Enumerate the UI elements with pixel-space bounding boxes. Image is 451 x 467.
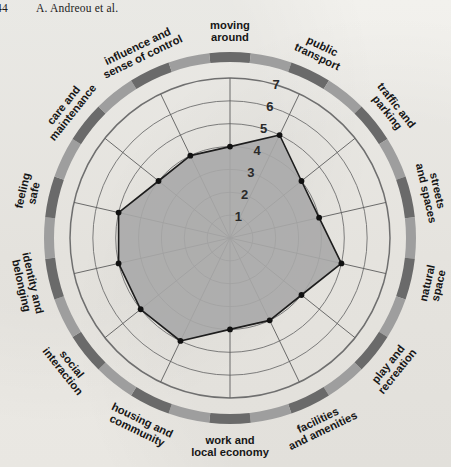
outer-ring-segment xyxy=(54,139,81,180)
outer-ring-segment xyxy=(396,177,415,219)
data-point-marker xyxy=(178,338,184,344)
axis-label-group: care andmaintenance xyxy=(37,75,98,143)
tick-label: 5 xyxy=(260,121,267,136)
running-head: 44 A. Andreou et al. xyxy=(0,2,451,18)
outer-ring-segment xyxy=(44,217,55,259)
data-point-marker xyxy=(156,178,162,184)
page-number: 44 xyxy=(0,2,8,14)
outer-ring-segment xyxy=(54,296,81,337)
data-point-marker xyxy=(116,210,122,216)
outer-ring-segment xyxy=(396,258,415,300)
outer-ring-segment xyxy=(324,362,362,395)
radar-chart-figure: 1234567 movingaroundpublictransporttraff… xyxy=(0,18,451,467)
outer-ring-segment xyxy=(45,177,64,219)
tick-label: 2 xyxy=(241,187,248,202)
data-point-marker xyxy=(316,215,322,221)
data-point-marker xyxy=(227,327,233,333)
series-area-polygon xyxy=(119,135,342,341)
data-point-marker xyxy=(187,153,193,159)
data-point-marker xyxy=(299,178,305,184)
axis-label-group: feelingsafe xyxy=(12,171,43,212)
data-point-marker xyxy=(267,317,273,323)
tick-label: 7 xyxy=(272,77,279,92)
axis-label-group: identity andbelonging xyxy=(9,251,46,318)
data-point-marker xyxy=(116,261,122,267)
outer-ring-segment xyxy=(209,52,251,63)
outer-ring-segment xyxy=(250,53,292,72)
data-point-marker xyxy=(138,306,144,312)
data-point-marker xyxy=(227,144,233,150)
axis-label-line: local economy xyxy=(191,446,269,458)
axis-label-group: movingaround xyxy=(210,19,250,43)
tick-label: 3 xyxy=(247,165,254,180)
outer-ring-segment xyxy=(379,139,406,180)
tick-label: 1 xyxy=(235,209,242,224)
outer-ring-segment xyxy=(288,62,329,89)
axis-label-group: naturalspace xyxy=(417,263,448,305)
axis-label-line: moving xyxy=(210,19,250,31)
outer-ring-segment xyxy=(169,53,211,72)
outer-ring-segment xyxy=(288,387,329,414)
axis-label-group: streetsand spaces xyxy=(414,160,451,225)
outer-ring-segment xyxy=(131,62,172,89)
running-head-authors: A. Andreou et al. xyxy=(36,2,118,14)
data-point-marker xyxy=(299,292,305,298)
outer-ring-segment xyxy=(131,387,172,414)
radar-chart-svg: 1234567 movingaroundpublictransporttraff… xyxy=(0,18,451,467)
outer-ring-segment xyxy=(324,81,362,114)
tick-label: 6 xyxy=(266,99,273,114)
data-point-marker xyxy=(339,261,345,267)
axis-label-group: work andlocal economy xyxy=(191,434,269,458)
outer-ring-segment xyxy=(45,258,64,300)
outer-ring-segment xyxy=(379,296,406,337)
outer-ring-segment xyxy=(169,404,211,423)
outer-ring-segment xyxy=(98,362,136,395)
axis-label-line: work and xyxy=(204,434,254,446)
outer-ring-segment xyxy=(98,81,136,114)
outer-ring-segment xyxy=(250,404,292,423)
data-point-marker xyxy=(277,132,283,138)
outer-ring-segment xyxy=(405,217,416,259)
tick-label: 4 xyxy=(254,143,262,158)
axis-label-line: around xyxy=(211,31,249,43)
outer-ring-segment xyxy=(209,413,251,424)
